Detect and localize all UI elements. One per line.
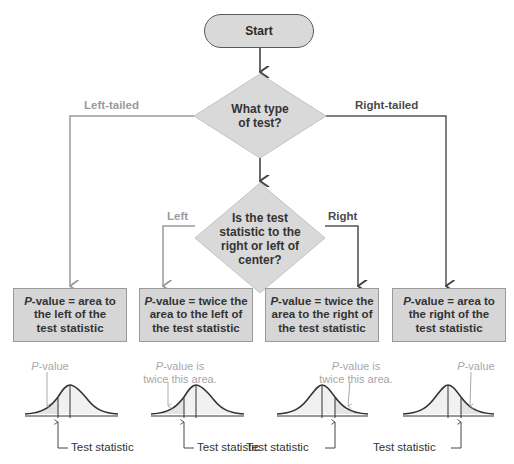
decision2-line3: right or left of bbox=[205, 239, 315, 253]
bell-curve-right-twice bbox=[277, 382, 368, 448]
curve2-note: P-value is twice this area. bbox=[140, 360, 220, 385]
left-tailed-label: Left-tailed bbox=[84, 99, 139, 111]
left-label: Left bbox=[167, 210, 188, 222]
test-statistic-label-1: Test statistic bbox=[71, 441, 134, 453]
test-statistic-label-3: Test statistic bbox=[246, 441, 309, 453]
right-tailed-connector bbox=[326, 116, 446, 286]
outcome-line2: area to the left of bbox=[144, 308, 247, 322]
right-connector bbox=[325, 226, 358, 286]
outcome-line3: the test statistic bbox=[144, 322, 247, 336]
curve3-note: P-value is twice this area. bbox=[316, 360, 396, 385]
right-label: Right bbox=[328, 210, 357, 222]
outcome-line3: test statistic bbox=[403, 322, 495, 336]
outcome-box-right-tailed: P-value = area to the right of the test … bbox=[392, 288, 506, 342]
decision1-line1: What type bbox=[215, 102, 305, 116]
bell-curve-left-twice bbox=[151, 382, 244, 448]
note-line1: -value is bbox=[163, 360, 204, 372]
outcome-line1: -value = twice the bbox=[152, 295, 248, 307]
bell-curve-right-tailed bbox=[403, 372, 494, 448]
right-tailed-label: Right-tailed bbox=[355, 99, 418, 111]
outcome-line1: -value = area to bbox=[32, 295, 116, 307]
curve1-note: P-value bbox=[20, 360, 80, 373]
curve4-note: P-value bbox=[446, 360, 506, 373]
p-symbol: P bbox=[24, 295, 32, 307]
p-symbol: P bbox=[31, 360, 38, 372]
left-connector bbox=[163, 226, 195, 286]
p-symbol: P bbox=[144, 295, 152, 307]
outcome-line2: the right of the bbox=[403, 308, 495, 322]
outcome-line1: -value = twice the bbox=[278, 295, 374, 307]
decision2-line2: statistic to the bbox=[205, 225, 315, 239]
outcome-line1: -value = area to bbox=[411, 295, 495, 307]
note-line1: -value bbox=[39, 360, 69, 372]
p-symbol: P bbox=[403, 295, 411, 307]
note-line2: twice this area. bbox=[316, 373, 396, 386]
decision1-text: What type of test? bbox=[215, 102, 305, 130]
start-label: Start bbox=[245, 24, 272, 38]
outcome-box-left-tailed: P-value = area to the left of the test s… bbox=[13, 288, 127, 342]
outcome-line2: area to the right of bbox=[270, 308, 373, 322]
p-symbol: P bbox=[457, 360, 464, 372]
test-statistic-label-4: Test statistic bbox=[373, 441, 436, 453]
outcome-line3: test statistic bbox=[24, 322, 116, 336]
p-symbol: P bbox=[270, 295, 278, 307]
note-line1: -value is bbox=[339, 360, 380, 372]
outcome-line3: the test statistic bbox=[270, 322, 373, 336]
decision2-text: Is the test statistic to the right or le… bbox=[205, 211, 315, 267]
decision1-line2: of test? bbox=[215, 116, 305, 130]
note-line2: twice this area. bbox=[140, 373, 220, 386]
decision2-line1: Is the test bbox=[205, 211, 315, 225]
outcome-line2: the left of the bbox=[24, 308, 116, 322]
start-node: Start bbox=[204, 14, 314, 48]
left-tailed-connector bbox=[70, 116, 194, 286]
note-line1: -value bbox=[465, 360, 495, 372]
bell-curve-left-tailed bbox=[25, 372, 118, 448]
outcome-box-left-twice: P-value = twice the area to the left of … bbox=[139, 288, 253, 342]
decision2-line4: center? bbox=[205, 253, 315, 267]
outcome-box-right-twice: P-value = twice the area to the right of… bbox=[265, 288, 379, 342]
